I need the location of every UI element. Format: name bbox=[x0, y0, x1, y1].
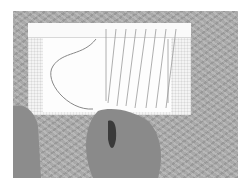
right-hand bbox=[86, 109, 161, 178]
left-hand bbox=[13, 105, 41, 178]
warp-strings bbox=[106, 29, 176, 108]
warp-and-yarn-drawing bbox=[13, 11, 238, 178]
yarn-strand bbox=[51, 39, 96, 109]
weaving-photo bbox=[13, 11, 238, 178]
